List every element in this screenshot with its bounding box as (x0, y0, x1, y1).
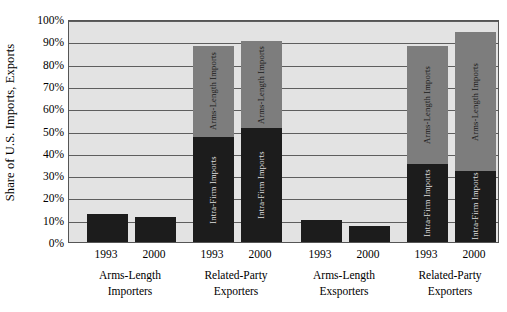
x-axis-year-label: 2000 (463, 248, 486, 260)
bar-stack (301, 220, 342, 242)
bar-segment-label: Arms-Length Imports (256, 46, 266, 124)
chart-container: Share of U.S. Imports, Exports 100%90%80… (0, 0, 507, 312)
y-axis-tick-label: 30% (43, 170, 64, 182)
x-axis-group-label-line2: Exporters (418, 283, 481, 299)
x-axis-group-label-line2: Exporters (204, 283, 267, 299)
bar-segment-dark: Intra-Firm Imports (455, 171, 496, 242)
bar-segment-dark (349, 226, 390, 242)
bar-segment-dark: Intra-Firm Imports (407, 164, 448, 242)
bar-segment-label: Arms-Length Imports (422, 66, 432, 144)
x-axis-labels: 19932000Arms-LengthImporters19932000Rela… (68, 243, 499, 312)
bar-segment-dark (135, 217, 176, 242)
bar-segment-gray: Arms-Length Imports (241, 41, 282, 128)
y-axis-tick-label: 50% (43, 126, 64, 138)
bar-segment-gray: Arms-Length Imports (193, 46, 234, 137)
y-axis-tick-label: 20% (43, 192, 64, 204)
bar-stack (349, 226, 390, 242)
bar-stack: Intra-Firm ImportsArms-Length Imports (241, 41, 282, 242)
bars-layer: Intra-Firm ImportsArms-Length ImportsInt… (69, 21, 498, 242)
y-axis-title-text: Share of U.S. Imports, Exports (4, 44, 19, 202)
bar-stack: Intra-Firm ImportsArms-Length Imports (193, 46, 234, 242)
bar-stack (87, 214, 128, 242)
x-axis-group-label-line1: Related-Party (418, 267, 481, 283)
bar-segment-label: Intra-Firm Imports (208, 156, 218, 224)
x-axis-year-label: 2000 (249, 248, 272, 260)
y-axis-tick-label: 60% (43, 103, 64, 115)
x-axis-year-label: 1993 (415, 248, 438, 260)
x-axis-group-label-line2: Exsporters (313, 283, 375, 299)
x-axis-year-label: 2000 (357, 248, 380, 260)
y-axis-tick-label: 0% (49, 237, 64, 249)
x-axis-year-label: 1993 (309, 248, 332, 260)
bar-segment-label: Arms-Length Imports (470, 62, 480, 140)
x-axis-year-label: 2000 (143, 248, 166, 260)
bar-segment-dark: Intra-Firm Imports (241, 128, 282, 242)
bar-segment-dark (301, 220, 342, 242)
y-axis-title: Share of U.S. Imports, Exports (0, 0, 22, 245)
x-axis-group-label: Related-PartyExporters (204, 267, 267, 299)
x-axis-group-label: Arms-LengthExsporters (313, 267, 375, 299)
x-axis-group-label: Related-PartyExporters (418, 267, 481, 299)
x-axis-group-label: Arms-LengthImporters (99, 267, 161, 299)
y-axis-tick-label: 40% (43, 148, 64, 160)
y-axis-tick-label: 10% (43, 215, 64, 227)
x-axis-group-label-line1: Arms-Length (313, 267, 375, 283)
bar-segment-label: Intra-Firm Imports (470, 173, 480, 241)
bar-segment-label: Intra-Firm Imports (422, 169, 432, 237)
bar-segment-dark (87, 214, 128, 242)
y-axis-tick-label: 80% (43, 59, 64, 71)
x-axis-group-label-line2: Importers (99, 283, 161, 299)
bar-segment-gray: Arms-Length Imports (407, 46, 448, 164)
y-axis-tick-labels: 100%90%80%70%60%50%40%30%20%10%0% (22, 0, 68, 262)
x-axis-year-label: 1993 (95, 248, 118, 260)
bar-segment-label: Intra-Firm Imports (256, 151, 266, 219)
bar-segment-gray: Arms-Length Imports (455, 32, 496, 170)
bar-stack: Intra-Firm ImportsArms-Length Imports (407, 46, 448, 242)
bar-stack: Intra-Firm ImportsArms-Length Imports (455, 32, 496, 242)
y-axis-tick-label: 100% (37, 14, 64, 26)
x-axis-group-label-line1: Related-Party (204, 267, 267, 283)
x-axis-group-label-line1: Arms-Length (99, 267, 161, 283)
y-axis-tick-label: 70% (43, 81, 64, 93)
bar-segment-label: Arms-Length Imports (208, 52, 218, 130)
bar-segment-dark: Intra-Firm Imports (193, 137, 234, 242)
x-axis-year-label: 1993 (201, 248, 224, 260)
bar-stack (135, 217, 176, 242)
y-axis-tick-label: 90% (43, 36, 64, 48)
plot-area: Intra-Firm ImportsArms-Length ImportsInt… (68, 20, 499, 243)
